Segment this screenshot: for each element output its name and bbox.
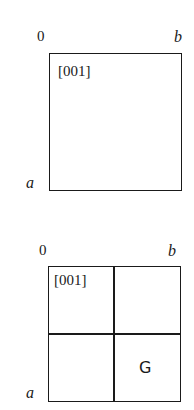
origin-label: 0 xyxy=(39,243,47,258)
horizontal-divider xyxy=(48,333,181,335)
direction-label: [001] xyxy=(58,64,91,79)
cell-g-label: G xyxy=(139,360,151,376)
axis-a-label: a xyxy=(26,175,34,191)
axis-a-label: a xyxy=(26,385,34,401)
axis-b-label: b xyxy=(174,29,182,45)
axis-b-label: b xyxy=(168,243,176,259)
direction-label: [001] xyxy=(54,273,87,288)
origin-label: 0 xyxy=(37,29,45,44)
